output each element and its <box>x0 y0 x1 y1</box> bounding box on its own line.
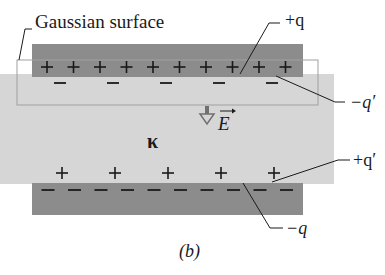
figure-caption: (b) <box>179 241 200 262</box>
bottom-plate <box>32 183 303 215</box>
minus-q-prime-label: −q′ <box>350 92 376 112</box>
plus-q-prime-label: +q′ <box>353 150 376 170</box>
electric-field-label: E <box>217 113 230 134</box>
dielectric-slab <box>0 74 334 184</box>
plus-q-label: +q <box>285 10 304 30</box>
gaussian-surface-leader <box>19 29 32 60</box>
minus-q-label: −q <box>286 218 307 238</box>
capacitor-dielectric-diagram: Gaussian surface +q −q′ +q′ −q E κ (b) <box>0 0 385 275</box>
dielectric-constant-label: κ <box>147 130 158 152</box>
gaussian-surface-label: Gaussian surface <box>35 11 164 32</box>
